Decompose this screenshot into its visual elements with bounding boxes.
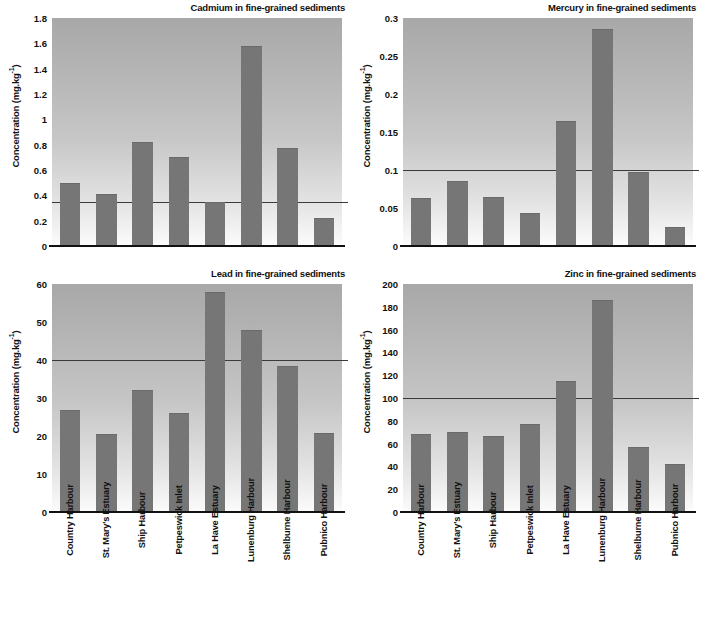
x-category-label: Country Harbour [403, 516, 439, 616]
x-category-label: Pubnico Harbour [306, 516, 342, 616]
x-category-label-text: St. Mary's Estuary [452, 482, 462, 559]
panel-mercury: Mercury in fine-grained sediments Concen… [351, 2, 702, 270]
y-tick-label: 20 [36, 431, 47, 442]
x-category-label-text: Country Harbour [65, 484, 75, 555]
x-category-label: St. Mary's Estuary [439, 516, 475, 616]
x-category-label: Shelburne Harbour [621, 516, 657, 616]
x-category-label: La Have Estuary [548, 516, 584, 616]
x-category-label-text: Lunenburg Harbour [246, 478, 256, 562]
plot-area: 0102030405060 [52, 284, 342, 512]
y-tick-label: 0.2 [34, 215, 47, 226]
y-tick-label: 200 [382, 279, 398, 290]
panel-lead: Lead in fine-grained sediments Concentra… [0, 268, 351, 536]
panel-title: Mercury in fine-grained sediments [548, 2, 696, 13]
x-category-label: Petpeswick Inlet [161, 516, 197, 616]
bar [60, 183, 80, 246]
x-category-label-text: La Have Estuary [210, 485, 220, 554]
x-category-label-text: Petpeswick Inlet [174, 485, 184, 554]
x-category-label: Shelburne Harbour [270, 516, 306, 616]
bar [241, 46, 261, 246]
bar-series [403, 18, 693, 246]
y-tick-label: 60 [387, 438, 398, 449]
y-axis-label: Concentration (mg.kg-1) [6, 2, 22, 230]
y-tick-label: 40 [36, 355, 47, 366]
bar [556, 121, 576, 246]
y-tick-label: 30 [36, 393, 47, 404]
x-category-label: Pubnico Harbour [657, 516, 693, 616]
x-category-label: St. Mary's Estuary [88, 516, 124, 616]
y-tick-label: 120 [382, 370, 398, 381]
bar-series [52, 284, 342, 512]
x-category-label-text: Lunenburg Harbour [597, 478, 607, 562]
x-axis-category-labels: Country HarbourSt. Mary's EstuaryShip Ha… [52, 516, 342, 616]
y-tick-label: 140 [382, 347, 398, 358]
x-category-label-text: La Have Estuary [561, 485, 571, 554]
y-tick-label: 0.15 [380, 127, 399, 138]
x-category-label-text: Ship Harbour [489, 492, 499, 548]
y-axis-label: Concentration (mg.kg-1) [357, 268, 373, 496]
bar [314, 218, 334, 246]
y-tick-label: 0 [42, 507, 47, 518]
x-category-label-text: Pubnico Harbour [319, 484, 329, 556]
panel-title: Lead in fine-grained sediments [211, 268, 345, 279]
x-category-label-text: Ship Harbour [138, 492, 148, 548]
y-tick-label: 20 [387, 484, 398, 495]
bar [520, 213, 540, 246]
plot-area: 00.050.10.150.20.250.3 [403, 18, 693, 246]
x-category-label-text: Shelburne Harbour [634, 480, 644, 561]
y-tick-label: 0.4 [34, 190, 47, 201]
x-category-label: Lunenburg Harbour [233, 516, 269, 616]
x-axis-line [49, 511, 345, 513]
y-tick-label: 10 [36, 469, 47, 480]
x-category-label-text: St. Mary's Estuary [101, 482, 111, 559]
bar [132, 142, 152, 246]
plot-area: 020406080100120140160180200 [403, 284, 693, 512]
y-tick-label: 50 [36, 317, 47, 328]
plot-area: 00.20.40.60.811.21.41.61.8 [52, 18, 342, 246]
bar [665, 227, 685, 246]
y-tick-label: 160 [382, 324, 398, 335]
y-tick-label: 40 [387, 461, 398, 472]
bar-series [403, 284, 693, 512]
x-category-label: Petpeswick Inlet [512, 516, 548, 616]
bar [205, 292, 225, 512]
y-tick-label: 0 [393, 507, 398, 518]
bar [277, 148, 297, 246]
y-tick-label: 60 [36, 279, 47, 290]
y-tick-label: 180 [382, 301, 398, 312]
bar [483, 197, 503, 246]
x-category-label: Ship Harbour [476, 516, 512, 616]
x-category-label-text: Petpeswick Inlet [525, 485, 535, 554]
y-tick-label: 0 [393, 241, 398, 252]
x-axis-line [49, 245, 345, 247]
x-category-label: Lunenburg Harbour [584, 516, 620, 616]
multi-panel-bar-chart-figure: Cadmium in fine-grained sediments Concen… [0, 0, 703, 630]
y-tick-label: 0.8 [34, 139, 47, 150]
y-tick-label: 0.3 [385, 13, 398, 24]
y-tick-label: 80 [387, 415, 398, 426]
y-tick-label: 1.8 [34, 13, 47, 24]
x-category-label: Country Harbour [52, 516, 88, 616]
y-tick-label: 0.1 [385, 165, 398, 176]
y-tick-label: 1.6 [34, 38, 47, 49]
bar [592, 29, 612, 246]
bar [169, 157, 189, 246]
x-category-label-text: Shelburne Harbour [283, 480, 293, 561]
bar [447, 181, 467, 246]
bar [628, 172, 648, 246]
y-tick-label: 0.6 [34, 165, 47, 176]
y-tick-label: 1.2 [34, 89, 47, 100]
bar-series [52, 18, 342, 246]
y-tick-label: 0.25 [380, 51, 399, 62]
y-tick-label: 100 [382, 393, 398, 404]
x-axis-line [400, 511, 696, 513]
y-axis-label: Concentration (mg.kg-1) [357, 2, 373, 230]
x-category-label-text: Country Harbour [416, 484, 426, 555]
x-category-label: Ship Harbour [125, 516, 161, 616]
bar [96, 194, 116, 246]
panel-title: Zinc in fine-grained sediments [565, 268, 696, 279]
panel-zinc: Zinc in fine-grained sediments Concentra… [351, 268, 702, 536]
bar [205, 202, 225, 246]
y-axis-label: Concentration (mg.kg-1) [6, 268, 22, 496]
y-tick-label: 0.05 [380, 203, 399, 214]
